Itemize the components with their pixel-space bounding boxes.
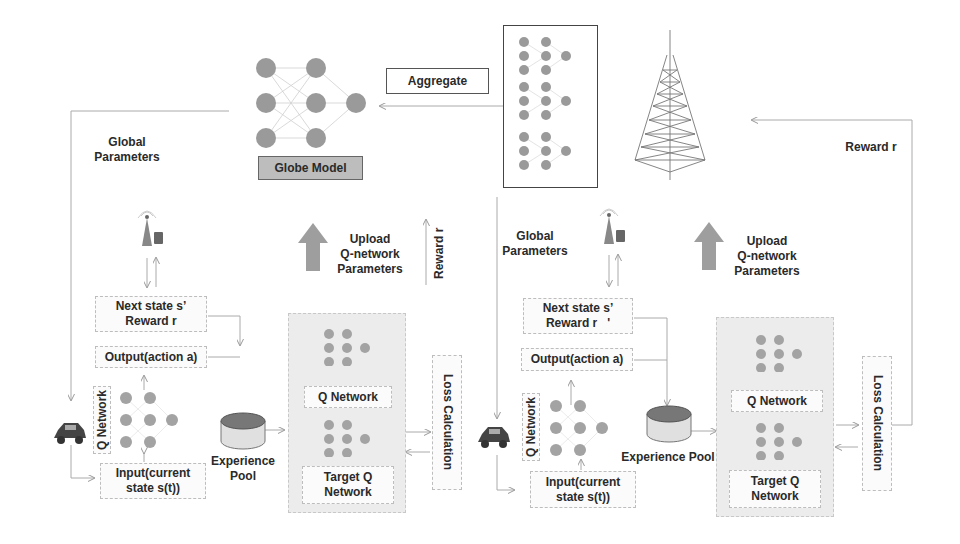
- right-experience-pool-icon: [645, 405, 693, 443]
- right-target-q-box: Target Q Network: [729, 470, 821, 508]
- right-global-parameters-label: Global Parameters: [500, 229, 570, 259]
- right-input-box: Input(current state s(t)): [530, 471, 636, 508]
- left-next-state-box: Next state s’ Reward r: [95, 296, 207, 332]
- stacked-neural-network-icon: [504, 26, 597, 187]
- right-car-icon: [476, 424, 512, 450]
- right-network-panel: Q Network Target Q Network: [716, 317, 834, 517]
- left-q-network-icon: [114, 384, 184, 454]
- right-q-network-vertical-label: Q Network: [522, 393, 540, 461]
- right-loss-calculation-box: Loss Calculation: [862, 356, 892, 491]
- left-experience-pool-icon: [219, 412, 267, 450]
- globe-model-label: Globe Model: [258, 156, 363, 180]
- left-reward-vertical-label: Reward r: [432, 224, 447, 282]
- aggregate-box: Aggregate: [386, 68, 489, 94]
- right-base-station-icon: [597, 206, 637, 254]
- left-q-network-vertical-label: Q Network: [93, 386, 111, 454]
- local-models-stack: [503, 25, 598, 188]
- left-loss-calculation-box: Loss Calculation: [432, 355, 462, 490]
- right-upload-arrow-icon: [694, 222, 724, 270]
- left-network-panel: Q Network Target Q Network: [288, 313, 406, 513]
- left-target-q-mini-icon: [319, 417, 373, 457]
- right-experience-pool-label: Experience Pool: [620, 450, 716, 465]
- left-base-station-icon: [135, 208, 175, 256]
- right-q-network-box: Q Network: [731, 390, 823, 412]
- right-target-q-mini-icon: [751, 420, 805, 460]
- right-reward-label: Reward r: [836, 140, 906, 155]
- left-car-icon: [52, 420, 88, 446]
- left-experience-pool-label: Experience Pool: [198, 454, 288, 484]
- transmission-tower-icon: [630, 30, 710, 180]
- left-upload-label: Upload Q-network Parameters: [330, 232, 410, 277]
- left-upload-arrow-icon: [298, 223, 328, 271]
- left-target-q-box: Target Q Network: [302, 466, 394, 504]
- right-output-box: Output(action a): [521, 348, 633, 371]
- left-output-box: Output(action a): [95, 346, 207, 368]
- right-q-network-mini-icon: [751, 332, 805, 372]
- right-upload-label: Upload Q-network Parameters: [727, 234, 807, 279]
- left-q-network-box: Q Network: [304, 386, 392, 408]
- left-input-box: Input(current state s(t)): [100, 463, 206, 499]
- neural-network-icon: [236, 40, 386, 150]
- right-next-state-box: Next state s’ Reward r': [523, 298, 633, 334]
- right-q-network-icon: [544, 392, 614, 462]
- left-global-parameters-label: Global Parameters: [92, 135, 162, 165]
- globe-model-network: [236, 40, 386, 150]
- left-q-network-mini-icon: [319, 326, 373, 366]
